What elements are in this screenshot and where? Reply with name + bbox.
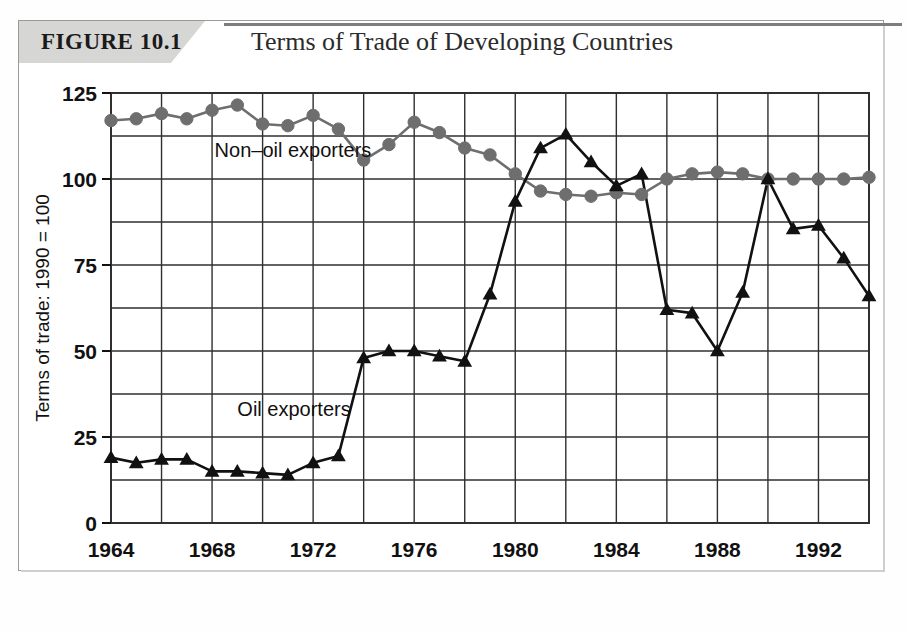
data-point-marker [533, 141, 548, 154]
header-rule [224, 23, 902, 26]
data-point-marker [331, 449, 346, 462]
series-inline-labels: Non–oil exportersOil exporters [215, 139, 372, 421]
data-point-marker [634, 166, 649, 179]
data-point-marker [534, 185, 546, 197]
x-tick-label: 1992 [795, 538, 842, 561]
y-tick-label: 100 [62, 168, 97, 191]
y-tick-label: 25 [74, 426, 98, 449]
data-point-marker [104, 450, 119, 463]
y-tick-label: 0 [85, 512, 97, 535]
y-tick-label: 125 [62, 82, 97, 105]
x-tick-label: 1976 [391, 538, 438, 561]
data-point-marker [155, 107, 167, 119]
data-point-marker [282, 119, 294, 131]
x-tick-label: 1980 [492, 538, 539, 561]
y-axis-tick-labels: 0255075100125 [62, 82, 111, 535]
chart-plot-area: 0255075100125 19641968197219761980198419… [19, 63, 883, 570]
series-inline-label: Non–oil exporters [215, 139, 372, 161]
data-point-marker [256, 118, 268, 130]
data-point-marker [560, 188, 572, 200]
data-point-marker [130, 113, 142, 125]
series-line-oil-exporters [111, 134, 869, 475]
data-point-marker [459, 142, 471, 154]
data-point-marker [585, 190, 597, 202]
x-axis-tick-labels: 19641968197219761980198419881992 [88, 538, 842, 561]
series-inline-label: Oil exporters [237, 398, 350, 420]
data-point-marker [863, 171, 875, 183]
x-tick-label: 1968 [189, 538, 236, 561]
figure-container: FIGURE 10.1 Terms of Trade of Developing… [0, 0, 907, 632]
data-point-marker [686, 168, 698, 180]
y-tick-label: 50 [74, 340, 97, 363]
figure-title: Terms of Trade of Developing Countries [251, 27, 673, 57]
y-axis-title: Terms of trade: 1990 = 100 [32, 194, 53, 422]
x-tick-label: 1972 [290, 538, 337, 561]
x-tick-label: 1964 [88, 538, 135, 561]
data-point-marker [483, 287, 498, 300]
data-point-marker [181, 113, 193, 125]
data-point-marker [332, 123, 344, 135]
data-point-marker [558, 127, 573, 140]
data-point-marker [383, 138, 395, 150]
data-point-marker [484, 149, 496, 161]
data-point-marker [408, 116, 420, 128]
data-point-marker [838, 173, 850, 185]
data-point-marker [231, 99, 243, 111]
data-point-marker [661, 173, 673, 185]
y-tick-label: 75 [74, 254, 98, 277]
data-point-marker [736, 168, 748, 180]
figure-header: FIGURE 10.1 Terms of Trade of Developing… [19, 21, 883, 63]
data-point-marker [811, 218, 826, 231]
data-point-marker [433, 126, 445, 138]
terms-of-trade-line-chart: 0255075100125 19641968197219761980198419… [19, 63, 883, 570]
data-point-marker [105, 114, 117, 126]
data-point-marker [711, 166, 723, 178]
data-point-marker [509, 168, 521, 180]
data-point-marker [206, 104, 218, 116]
x-tick-label: 1988 [694, 538, 741, 561]
data-point-marker [635, 188, 647, 200]
figure-number-label: FIGURE 10.1 [41, 29, 182, 55]
data-point-marker [307, 109, 319, 121]
data-point-marker [812, 173, 824, 185]
x-tick-label: 1984 [593, 538, 640, 561]
data-point-marker [735, 285, 750, 298]
data-point-marker [508, 194, 523, 207]
data-point-marker [787, 173, 799, 185]
